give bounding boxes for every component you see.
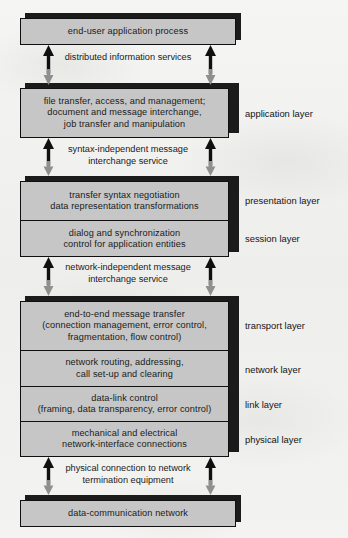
data-communication-network-box: data-communication network bbox=[20, 500, 236, 527]
transport-layer-cell: end-to-end message transfer (connection … bbox=[21, 302, 228, 350]
presentation-layer-cell: transfer syntax negotiation data represe… bbox=[21, 182, 228, 220]
caption-network-independent-line1: network-independent bbox=[65, 262, 151, 272]
data-communication-network-cell: data-communication network bbox=[21, 501, 235, 526]
session-layer-line1: dialog and synchronization bbox=[69, 228, 180, 239]
layer-label-network: network layer bbox=[245, 364, 301, 375]
caption-network-independent-message-interchange-service: network-independent message interchange … bbox=[56, 262, 200, 285]
session-layer-line2: control for application entities bbox=[63, 239, 185, 250]
osi-model-diagram: end-user application process distributed… bbox=[0, 0, 348, 538]
arrow-syntax-independent-left bbox=[41, 138, 56, 176]
presentation-layer-line1: transfer syntax negotiation bbox=[69, 190, 179, 201]
layer-label-transport: transport layer bbox=[245, 320, 305, 331]
network-layer-cell: network routing, addressing, call set-up… bbox=[21, 350, 228, 386]
end-user-application-process-text: end-user application process bbox=[68, 26, 188, 37]
transport-layer-line3: fragmentation, flow control) bbox=[68, 332, 182, 343]
arrow-syntax-independent-right bbox=[203, 138, 218, 176]
network-layer-line2: call set-up and clearing bbox=[76, 369, 173, 380]
session-layer-cell: dialog and synchronization control for a… bbox=[21, 220, 228, 257]
arrow-distributed-information-services-right bbox=[203, 45, 218, 85]
transport-layer-line1: end-to-end message transfer bbox=[64, 309, 185, 320]
link-layer-line2: (framing, data transparency, error contr… bbox=[38, 404, 212, 415]
application-layer-line3: job transfer and manipulation bbox=[64, 119, 185, 130]
data-communication-network-text: data-communication network bbox=[68, 508, 188, 519]
application-layer-line1: file transfer, access, and management; bbox=[44, 96, 206, 107]
physical-layer-line2: network-interface connections bbox=[62, 439, 187, 450]
layer-label-presentation: presentation layer bbox=[245, 195, 320, 206]
caption-physical-connection-to-network-termination-equipment: physical connection to network terminati… bbox=[56, 463, 200, 486]
lower-layers-box: end-to-end message transfer (connection … bbox=[20, 301, 229, 457]
caption-distributed-information-services-line1: distributed information bbox=[65, 52, 155, 62]
link-layer-line1: data-link control bbox=[91, 393, 158, 404]
presentation-session-box: transfer syntax negotiation data represe… bbox=[20, 181, 229, 257]
physical-layer-line1: mechanical and electrical bbox=[72, 428, 178, 439]
caption-syntax-independent-line1: syntax-independent message bbox=[68, 144, 188, 154]
physical-layer-cell: mechanical and electrical network-interf… bbox=[21, 421, 228, 456]
caption-distributed-information-services: distributed information services bbox=[62, 52, 194, 64]
caption-syntax-independent-line2: interchange service bbox=[88, 156, 168, 166]
arrow-physical-connection-right bbox=[203, 457, 218, 495]
arrow-physical-connection-left bbox=[41, 457, 56, 495]
layer-label-session: session layer bbox=[245, 233, 300, 244]
arrow-distributed-information-services-left bbox=[41, 45, 56, 85]
application-layer-line2: document and message interchange, bbox=[47, 107, 201, 118]
end-user-application-process-box: end-user application process bbox=[20, 18, 236, 45]
arrow-network-independent-right bbox=[203, 257, 218, 296]
application-layer-cell: file transfer, access, and management; d… bbox=[21, 89, 228, 137]
presentation-layer-line2: data representation transformations bbox=[50, 201, 199, 212]
layer-label-physical: physical layer bbox=[245, 434, 302, 445]
caption-syntax-independent-message-interchange-service: syntax-independent message interchange s… bbox=[58, 144, 198, 167]
arrow-network-independent-left bbox=[41, 257, 56, 296]
caption-physical-connection-line1: physical connection to bbox=[65, 463, 155, 473]
transport-layer-line2: (connection management, error control, bbox=[42, 320, 207, 331]
application-layer-box: file transfer, access, and management; d… bbox=[20, 88, 229, 138]
layer-label-link: link layer bbox=[245, 399, 282, 410]
layer-label-application: application layer bbox=[245, 108, 313, 119]
caption-distributed-information-services-line2: services bbox=[158, 52, 192, 62]
link-layer-cell: data-link control (framing, data transpa… bbox=[21, 386, 228, 421]
end-user-application-process-cell: end-user application process bbox=[21, 19, 235, 44]
network-layer-line1: network routing, addressing, bbox=[65, 357, 183, 368]
